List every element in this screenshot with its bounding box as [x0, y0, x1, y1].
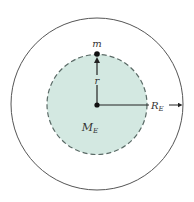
earth-gravity-diagram: m r RE ME [0, 0, 194, 202]
center-dot [94, 102, 99, 107]
mass-m-label: m [92, 38, 101, 49]
point-mass-dot [94, 51, 100, 57]
